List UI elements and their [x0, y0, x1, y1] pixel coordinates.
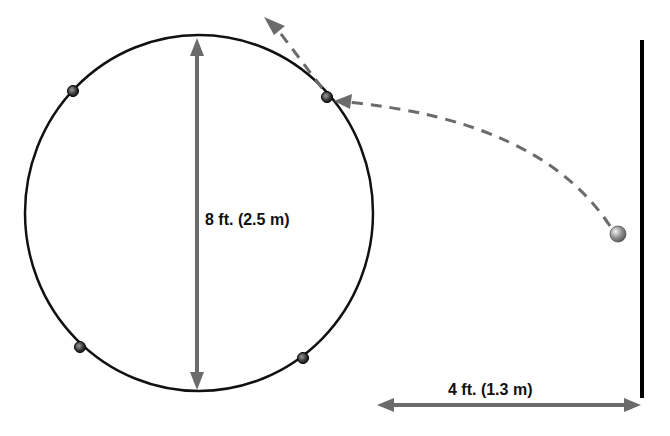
incoming-trajectory: [334, 94, 610, 226]
diameter-label: 8 ft. (2.5 m): [205, 211, 289, 229]
ball: [610, 226, 626, 242]
marker-upper-left: [68, 86, 79, 97]
marker-lower-right: [298, 353, 309, 364]
diagram-svg: [0, 0, 670, 436]
diameter-arrow: [190, 38, 204, 390]
marker-lower-left: [75, 342, 86, 353]
distance-arrow: [377, 398, 641, 412]
wall-distance-label: 4 ft. (1.3 m): [448, 381, 532, 399]
marker-upper-right: [322, 92, 333, 103]
diagram-canvas: 8 ft. (2.5 m) 4 ft. (1.3 m): [0, 0, 670, 436]
